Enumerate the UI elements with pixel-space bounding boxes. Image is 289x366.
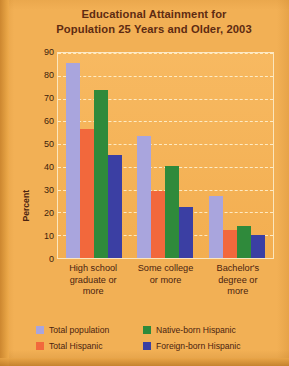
x-axis-label: Some collegeor more <box>129 263 201 298</box>
bar-fill <box>80 129 94 258</box>
legend-item[interactable]: Total population <box>36 325 143 335</box>
legend-swatch-icon <box>36 326 44 334</box>
chart-legend: Total populationNative-born HispanicTota… <box>36 322 280 354</box>
x-axis-labels: High schoolgraduate ormoreSome collegeor… <box>57 263 274 298</box>
x-axis-label-line: High school <box>57 263 129 275</box>
bar-fill <box>165 166 179 258</box>
bar-group <box>66 53 122 258</box>
y-tick-label: 10 <box>44 231 54 241</box>
bar-fill <box>237 226 251 258</box>
y-axis-ticks: 9080706050403020100 <box>24 46 54 265</box>
x-axis-label-line: more <box>202 286 274 298</box>
legend-swatch-icon <box>36 342 44 350</box>
legend-label: Foreign-born Hispanic <box>156 341 241 351</box>
chart-page: Educational Attainment for Population 25… <box>0 0 289 366</box>
bar-fill <box>137 136 151 258</box>
y-tick-label: 50 <box>44 139 54 149</box>
y-axis-label: Percent <box>10 118 24 188</box>
legend-label: Total Hispanic <box>49 341 103 351</box>
bar-fill <box>108 155 122 259</box>
y-tick-label: 30 <box>44 185 54 195</box>
y-tick-label: 60 <box>44 116 54 126</box>
x-axis-label: Bachelor'sdegree ormore <box>202 263 274 298</box>
y-tick-label: 20 <box>44 208 54 218</box>
x-axis-label-line: or more <box>129 275 201 287</box>
bar-group <box>209 53 265 258</box>
bar-fill <box>179 207 193 258</box>
page-bottom-edge <box>0 358 289 366</box>
chart-title: Educational Attainment for Population 25… <box>28 7 280 36</box>
page-left-edge <box>0 0 9 366</box>
plot-area <box>57 52 274 259</box>
bar-fill <box>151 191 165 258</box>
x-axis-label-line: Bachelor's <box>202 263 274 275</box>
legend-item[interactable]: Foreign-born Hispanic <box>143 341 280 351</box>
bar-fill <box>223 230 237 258</box>
x-axis-label-line: degree or <box>202 275 274 287</box>
bar-fill <box>209 196 223 258</box>
y-tick-label: 0 <box>49 254 54 264</box>
y-tick-label: 70 <box>44 93 54 103</box>
bar-fill <box>94 90 108 258</box>
legend-label: Native-born Hispanic <box>156 325 236 335</box>
x-axis-label-line: Some college <box>129 263 201 275</box>
chart-title-line-2: Population 25 Years and Older, 2003 <box>28 22 280 37</box>
y-tick-label: 40 <box>44 162 54 172</box>
x-axis-label-line: graduate or <box>57 275 129 287</box>
y-tick-label: 80 <box>44 70 54 80</box>
legend-item[interactable]: Total Hispanic <box>36 341 143 351</box>
legend-swatch-icon <box>143 342 151 350</box>
legend-label: Total population <box>49 325 109 335</box>
legend-item[interactable]: Native-born Hispanic <box>143 325 280 335</box>
x-axis-label: High schoolgraduate ormore <box>57 263 129 298</box>
bar-groups <box>58 53 273 258</box>
bar-fill <box>251 235 265 258</box>
bar-fill <box>66 63 80 259</box>
bar-group <box>137 53 193 258</box>
legend-swatch-icon <box>143 326 151 334</box>
y-tick-label: 90 <box>44 47 54 57</box>
x-axis-label-line: more <box>57 286 129 298</box>
chart-title-line-1: Educational Attainment for <box>28 7 280 22</box>
